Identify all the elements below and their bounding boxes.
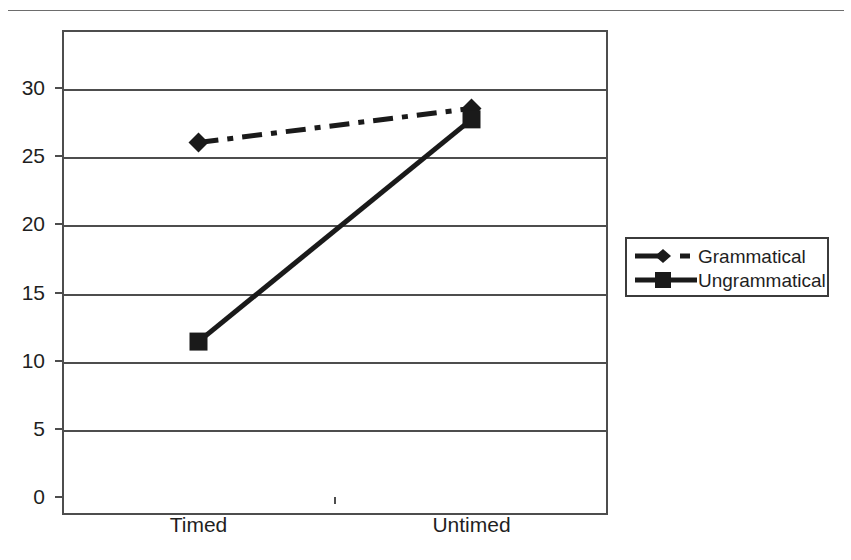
y-axis-tick-label: 0 [0, 486, 45, 507]
y-axis-tick [55, 223, 62, 225]
legend-label-ungrammatical: Ungrammatical [698, 271, 826, 290]
y-axis-tick [55, 155, 62, 157]
gridline [64, 157, 606, 159]
clipped-header-text [8, 0, 844, 9]
x-axis-tick [334, 497, 336, 504]
gridline [64, 89, 606, 91]
y-axis-tick-label: 30 [0, 77, 45, 98]
y-axis-tick-label: 15 [0, 282, 45, 303]
square-marker-icon [634, 269, 698, 291]
gridline [64, 294, 606, 296]
y-axis-tick-label: 5 [0, 418, 45, 439]
chart-legend: Grammatical Ungrammatical [625, 237, 829, 297]
gridline [64, 362, 606, 364]
y-axis-tick-label: 20 [0, 213, 45, 234]
y-axis-tick [55, 360, 62, 362]
gridline [64, 430, 606, 432]
legend-item-grammatical[interactable]: Grammatical [634, 244, 820, 268]
y-axis-tick [55, 87, 62, 89]
y-axis-tick-label: 25 [0, 145, 45, 166]
chart-figure: 051015202530 TimedUntimed Grammatical [0, 18, 851, 560]
plot-area [62, 30, 608, 515]
legend-item-ungrammatical[interactable]: Ungrammatical [634, 268, 820, 292]
legend-label-grammatical: Grammatical [698, 247, 806, 266]
x-axis-category-label: Timed [109, 514, 289, 535]
y-axis-tick [55, 428, 62, 430]
diamond-marker-icon [634, 245, 698, 267]
y-axis-tick-label: 10 [0, 350, 45, 371]
gridline [64, 225, 606, 227]
horizontal-rule [8, 10, 844, 11]
y-axis-tick [55, 292, 62, 294]
y-axis-tick [55, 496, 62, 498]
x-axis-category-label: Untimed [382, 514, 562, 535]
